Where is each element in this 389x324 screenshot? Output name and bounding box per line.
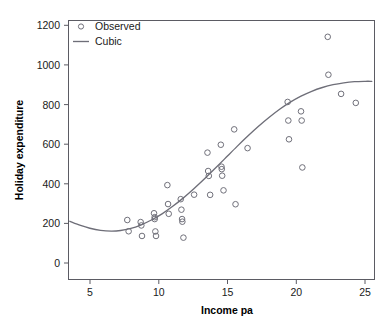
- observed-points-group: [124, 34, 358, 240]
- observed-data-point: [218, 142, 224, 148]
- chart-figure: 1200 1000 800 600 400 200 0 5 10 15 20 2…: [0, 0, 389, 324]
- chart-legend: Observed Cubic: [73, 20, 141, 47]
- observed-data-point: [124, 217, 130, 223]
- legend-label-cubic: Cubic: [95, 35, 122, 47]
- x-tick-label-25: 25: [359, 286, 371, 298]
- y-tick-label-400: 400: [42, 178, 60, 190]
- plot-frame: [69, 21, 375, 280]
- x-axis-title: Income pa: [201, 304, 253, 316]
- observed-data-point: [166, 211, 172, 217]
- scatter-plot-canvas: 1200 1000 800 600 400 200 0 5 10 15 20 2…: [0, 0, 389, 324]
- observed-data-point: [245, 145, 251, 151]
- observed-data-point: [233, 201, 239, 207]
- observed-data-point: [299, 118, 305, 124]
- observed-data-point: [205, 150, 211, 156]
- x-tick-label-20: 20: [290, 286, 302, 298]
- x-tick-label-10: 10: [153, 286, 165, 298]
- x-tick-label-5: 5: [87, 286, 93, 298]
- observed-data-point: [286, 118, 292, 124]
- cubic-fit-curve: [70, 81, 372, 231]
- x-axis-ticks: [90, 280, 365, 285]
- y-axis-tick-labels: 1200 1000 800 600 400 200 0: [37, 19, 61, 269]
- observed-data-point: [231, 127, 237, 133]
- y-tick-label-1200: 1200: [37, 19, 61, 31]
- observed-data-point: [326, 72, 332, 78]
- observed-data-point: [207, 192, 213, 198]
- observed-data-point: [300, 165, 306, 171]
- observed-data-point: [191, 192, 197, 198]
- observed-data-point: [165, 201, 171, 207]
- y-axis-title: Holiday expenditure: [13, 100, 25, 201]
- observed-data-point: [325, 34, 331, 40]
- legend-observed-marker-icon: [78, 24, 83, 29]
- observed-data-point: [139, 233, 145, 239]
- observed-data-point: [286, 137, 292, 143]
- y-tick-label-800: 800: [42, 99, 60, 111]
- y-tick-label-600: 600: [42, 138, 60, 150]
- y-tick-label-0: 0: [54, 257, 60, 269]
- y-axis-ticks: [64, 25, 69, 263]
- observed-data-point: [338, 91, 344, 97]
- observed-data-point: [353, 100, 359, 106]
- observed-data-point: [181, 235, 187, 241]
- y-tick-label-200: 200: [42, 217, 60, 229]
- y-tick-label-1000: 1000: [37, 59, 61, 71]
- observed-data-point: [219, 173, 225, 179]
- observed-data-point: [165, 182, 171, 188]
- x-axis-tick-labels: 5 10 15 20 25: [87, 286, 371, 298]
- observed-data-point: [179, 207, 185, 213]
- legend-label-observed: Observed: [95, 20, 141, 32]
- x-tick-label-15: 15: [222, 286, 234, 298]
- observed-data-point: [221, 188, 227, 194]
- observed-data-point: [298, 109, 304, 115]
